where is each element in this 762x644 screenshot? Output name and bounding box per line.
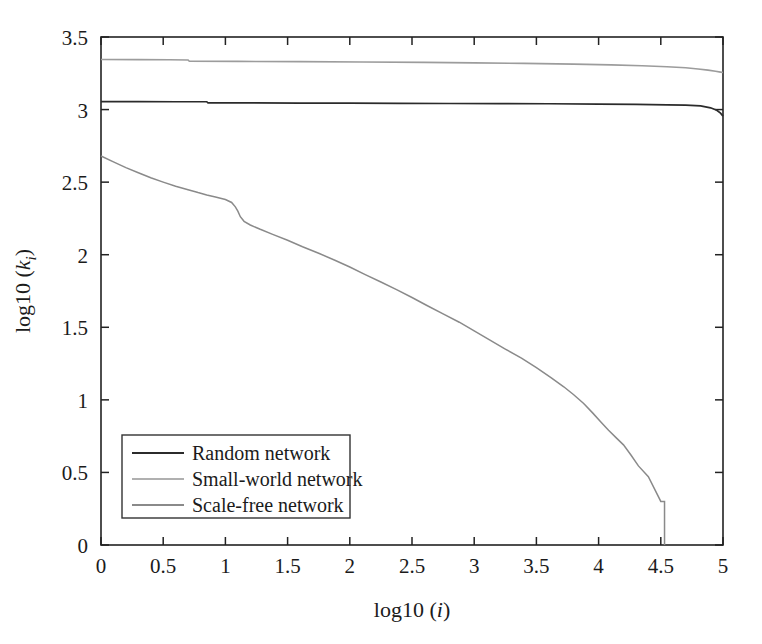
y-tick-label-5: 2.5: [62, 171, 88, 195]
x-tick-label-7: 3.5: [523, 554, 549, 578]
x-title-suffix: ): [443, 597, 450, 622]
x-title-prefix: log10 (: [374, 597, 437, 622]
legend-label-1: Small-world network: [192, 468, 363, 490]
x-tick-label-4: 2: [345, 554, 356, 578]
y-tick-label-3: 1.5: [62, 316, 88, 340]
degree-rank-plot: 00.511.522.533.544.55 00.511.522.533.5 R…: [0, 0, 762, 644]
x-axis-title: log10 (i): [374, 597, 450, 622]
x-tick-label-10: 5: [718, 554, 729, 578]
y-title-prefix: log10 (: [10, 270, 35, 333]
y-tick-label-0: 0: [78, 534, 89, 558]
y-tick-label-6: 3: [78, 99, 89, 123]
x-tick-label-8: 4: [593, 554, 604, 578]
x-tick-label-0: 0: [96, 554, 107, 578]
legend-label-2: Scale-free network: [192, 494, 344, 516]
x-tick-label-5: 2.5: [399, 554, 425, 578]
y-tick-label-2: 1: [78, 389, 89, 413]
figure-background: [0, 0, 762, 644]
y-title-suffix: ): [10, 249, 35, 256]
x-tick-label-6: 3: [469, 554, 480, 578]
y-tick-label-1: 0.5: [62, 461, 88, 485]
x-tick-label-3: 1.5: [274, 554, 300, 578]
legend-label-0: Random network: [192, 442, 330, 464]
y-axis-title: log10 (ki): [10, 249, 39, 333]
figure-container: 00.511.522.533.544.55 00.511.522.533.5 R…: [0, 0, 762, 644]
y-tick-label-7: 3.5: [62, 26, 88, 50]
y-tick-label-4: 2: [78, 244, 89, 268]
x-tick-label-1: 0.5: [150, 554, 176, 578]
x-tick-label-9: 4.5: [648, 554, 674, 578]
chart-legend: Random networkSmall-world networkScale-f…: [122, 435, 363, 518]
x-tick-label-2: 1: [220, 554, 231, 578]
